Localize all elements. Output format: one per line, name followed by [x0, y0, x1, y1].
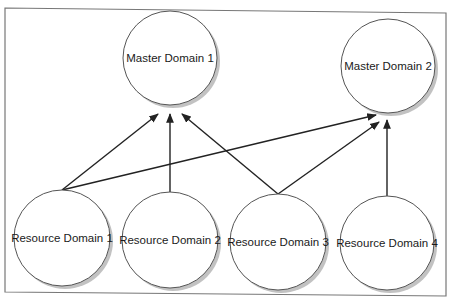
edges-layer: [62, 114, 387, 196]
node-label: Resource Domain 4: [336, 237, 438, 249]
node-md1: Master Domain 1: [123, 11, 220, 108]
node-label: Resource Domain 1: [11, 232, 113, 244]
node-rd3: Resource Domain 3: [227, 194, 329, 293]
diagram-canvas: Master Domain 1Master Domain 2Resource D…: [0, 0, 455, 301]
node-rd2: Resource Domain 2: [119, 192, 221, 291]
node-md2: Master Domain 2: [341, 19, 438, 116]
node-label: Master Domain 2: [344, 60, 432, 72]
edge-rd3-to-md2: [278, 122, 379, 194]
edge-rd3-to-md1: [182, 114, 278, 194]
node-label: Master Domain 1: [126, 52, 214, 64]
nodes-layer: Master Domain 1Master Domain 2Resource D…: [11, 11, 438, 293]
node-rd1: Resource Domain 1: [11, 190, 113, 289]
node-rd4: Resource Domain 4: [336, 196, 438, 293]
node-label: Resource Domain 2: [119, 234, 221, 246]
node-label: Resource Domain 3: [227, 236, 329, 248]
